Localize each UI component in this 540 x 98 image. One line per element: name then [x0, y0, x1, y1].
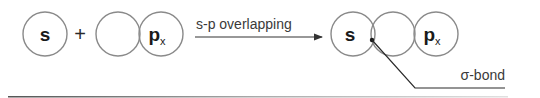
- arrow-label: s-p overlapping: [196, 16, 292, 32]
- sigma-bond-label: σ-bond: [461, 67, 505, 83]
- orbital-overlap-diagram: s + px s-p overlapping s px: [0, 0, 540, 98]
- s-orbital-label: s: [40, 24, 51, 45]
- reactant-p-orbital: px: [96, 12, 183, 56]
- p-orbital-letter: p: [148, 24, 160, 45]
- reactant-s-orbital: s: [23, 12, 67, 56]
- plus-sign: +: [74, 23, 86, 45]
- p-orbital-lobe-left: [96, 12, 140, 56]
- product-p-orbital-letter: p: [423, 24, 435, 45]
- product-p-orbital-lobe-right: [414, 12, 458, 56]
- reaction-arrow: s-p overlapping: [195, 16, 322, 37]
- p-orbital-subscript: x: [160, 35, 166, 47]
- product-s-orbital-label: s: [345, 24, 356, 45]
- p-orbital-label: px: [148, 24, 166, 47]
- product-overlap: s px: [331, 12, 458, 56]
- product-p-orbital-lobe-left: [371, 12, 415, 56]
- product-p-orbital-label: px: [423, 24, 441, 47]
- product-p-orbital-subscript: x: [435, 35, 441, 47]
- p-orbital-lobe-right: [139, 12, 183, 56]
- bottom-divider: [8, 96, 508, 98]
